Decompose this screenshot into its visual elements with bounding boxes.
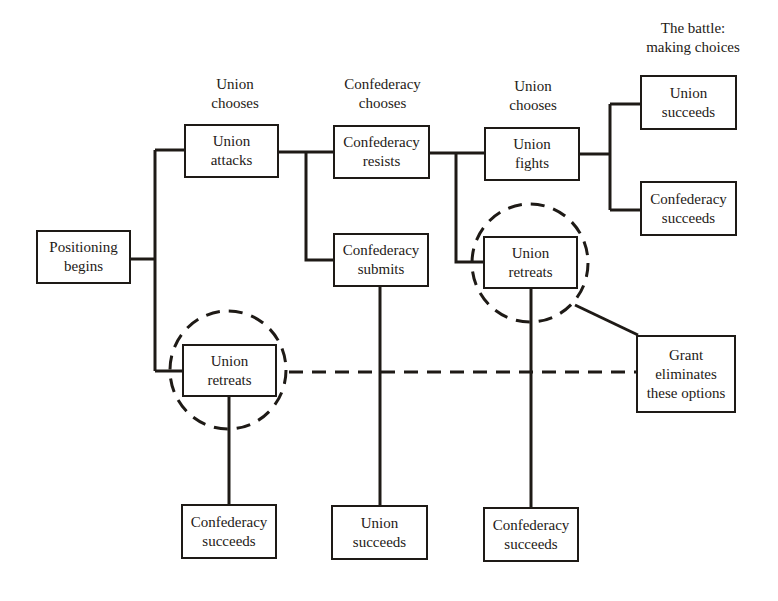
node-union-retreats-2: Unionretreats: [483, 236, 578, 289]
header-union-chooses-1: Unionchooses: [190, 75, 280, 113]
node-union-attacks: Unionattacks: [184, 124, 279, 178]
node-confederacy-succeeds-top: Confederacysucceeds: [640, 181, 737, 236]
header-confederacy-chooses: Confederacychooses: [330, 75, 435, 113]
decision-tree-diagram: Unionchooses Confederacychooses Unioncho…: [0, 0, 778, 601]
node-grant-eliminates: Granteliminatesthese options: [636, 335, 736, 413]
node-union-retreats-1: Unionretreats: [182, 344, 277, 397]
node-union-fights: Unionfights: [484, 127, 580, 181]
node-confederacy-succeeds-bottom-1: Confederacysucceeds: [181, 504, 277, 559]
header-union-chooses-2: Unionchooses: [488, 77, 578, 115]
node-confederacy-resists: Confederacyresists: [333, 125, 430, 179]
header-the-battle: The battle:making choices: [628, 19, 758, 57]
node-confederacy-submits: Confederacysubmits: [333, 233, 429, 287]
node-positioning-begins: Positioningbegins: [36, 230, 131, 284]
node-confederacy-succeeds-bottom-2: Confederacysucceeds: [483, 507, 579, 562]
node-union-succeeds-top: Unionsucceeds: [640, 75, 737, 130]
node-union-succeeds-bottom: Unionsucceeds: [331, 505, 428, 560]
